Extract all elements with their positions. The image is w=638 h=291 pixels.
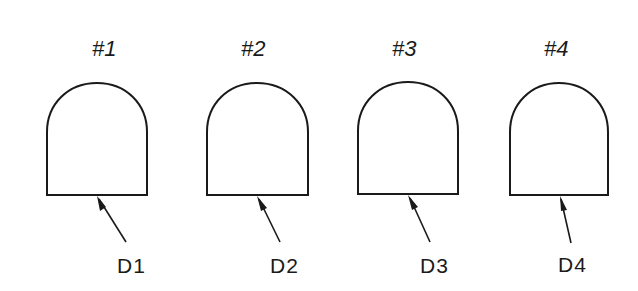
profile-1: #1 D1 bbox=[47, 36, 147, 277]
dimension-label-1: D1 bbox=[117, 254, 146, 277]
profile-title-2: #2 bbox=[241, 36, 265, 61]
dimension-label-3: D3 bbox=[420, 254, 449, 277]
dome-shape-3 bbox=[358, 82, 458, 194]
arrowhead-icon-4 bbox=[560, 196, 567, 211]
profile-3: #3 D3 bbox=[358, 36, 458, 277]
diagram-canvas: #1 D1 #2 D2 #3 D3 #4 D4 bbox=[0, 0, 638, 291]
dimension-label-2: D2 bbox=[270, 254, 299, 277]
profile-title-4: #4 bbox=[544, 36, 568, 61]
dome-shape-4 bbox=[510, 83, 608, 195]
profile-title-3: #3 bbox=[392, 36, 417, 61]
profile-title-1: #1 bbox=[92, 36, 116, 61]
dimension-label-4: D4 bbox=[558, 253, 587, 276]
dome-shape-1 bbox=[47, 83, 147, 195]
profile-4: #4 D4 bbox=[510, 36, 608, 276]
arrowhead-icon-2 bbox=[257, 196, 267, 211]
profile-2: #2 D2 bbox=[207, 36, 308, 277]
arrowhead-icon-3 bbox=[408, 195, 418, 210]
dome-shape-2 bbox=[207, 83, 308, 195]
